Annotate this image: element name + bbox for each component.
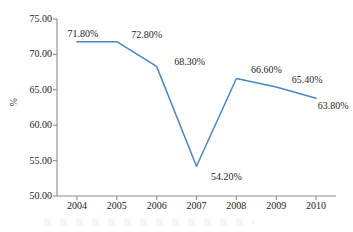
y-axis-ticks [53,19,57,196]
data-point-label: 72.80% [122,30,172,40]
data-point-label: 54.20% [202,172,252,182]
x-axis-ticks [77,196,316,200]
data-point-label: 68.30% [165,57,215,67]
scan-artifact [44,219,254,225]
data-point-label: 65.40% [282,75,332,85]
data-point-label: 63.80% [308,101,353,111]
data-point-label: 71.80% [58,29,108,39]
axis-spines [57,19,336,196]
